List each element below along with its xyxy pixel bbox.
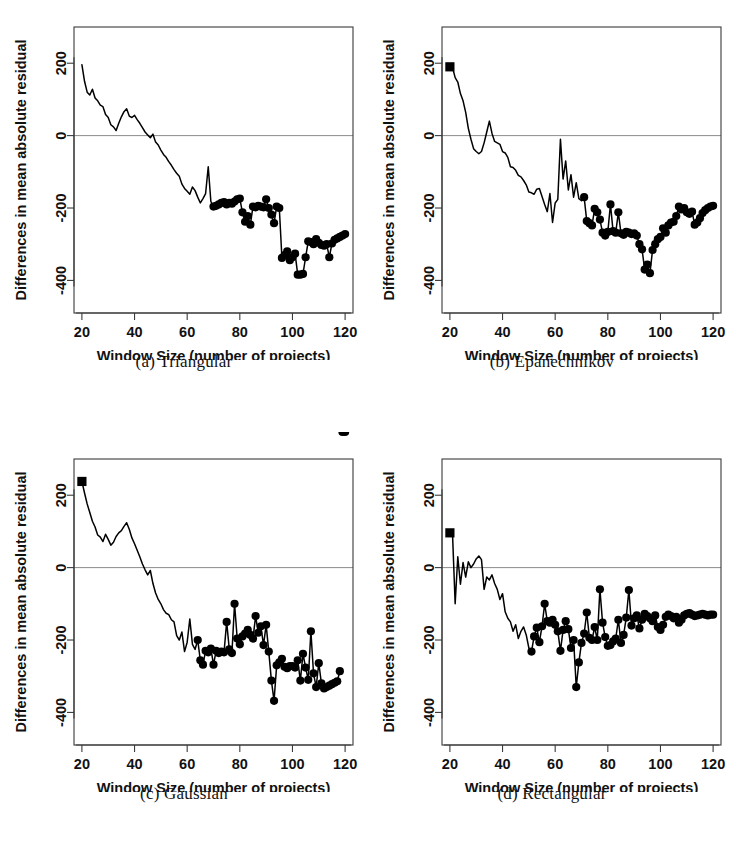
data-point [270,219,278,227]
y-axis-title: Differences in mean absolute residual [13,471,29,732]
data-point [593,208,601,216]
data-point [341,230,349,238]
data-line [82,481,340,700]
y-tick-label: -400 [53,266,69,295]
data-point [252,612,260,620]
data-point [572,683,580,691]
data-point [262,621,270,629]
data-point [265,648,273,656]
x-tick-label: 100 [280,756,304,772]
data-point [315,659,323,667]
data-point [620,631,628,639]
x-tick-label: 20 [74,756,90,772]
data-point [325,253,333,261]
data-point [270,697,278,705]
caption-b: (b) Epanechnikov [368,352,736,372]
caption-c: (c) Gaussian [0,784,368,804]
data-point [577,639,585,647]
panel-c: 204060801001202000-200-400Window Size (n… [0,432,368,864]
data-point [194,636,202,644]
x-tick-label: 20 [74,324,90,340]
y-tick-label: -200 [53,625,69,654]
x-tick-label: 80 [600,324,616,340]
data-point [591,623,599,631]
data-point [564,625,572,633]
x-tick-label: 20 [442,324,458,340]
data-point [567,644,575,652]
data-point [267,210,275,218]
y-tick-label: 0 [421,564,437,572]
data-point [643,260,651,268]
x-tick-label: 60 [179,756,195,772]
data-point [646,269,654,277]
plot-svg-b: 204060801001202000-200-400Window Size (n… [368,0,736,360]
data-point [333,677,341,685]
y-tick-label: 0 [53,132,69,140]
x-tick-label: 100 [648,756,672,772]
data-point [709,202,717,210]
plot-b: 204060801001202000-200-400Window Size (n… [368,0,736,360]
x-tick-label: 40 [494,324,510,340]
data-point [601,633,609,641]
x-tick-label: 120 [333,324,357,340]
data-point [562,617,570,625]
data-point [662,229,670,237]
data-point [556,647,564,655]
data-point [635,624,643,632]
data-point [309,669,317,677]
plot-frame [442,27,721,313]
y-tick-label: 0 [53,564,69,572]
x-tick-label: 40 [126,756,142,772]
plot-svg-a: 204060801001202000-200-400Window Size (n… [0,0,368,360]
x-tick-label: 80 [232,756,248,772]
x-tick-label: 120 [701,324,725,340]
x-tick-label: 80 [600,756,616,772]
data-point [622,613,630,621]
data-point [593,636,601,644]
plot-d: 204060801001202000-200-400Window Size (n… [368,432,736,792]
data-point [223,618,231,626]
data-point [588,221,596,229]
caption-d: (d) Rectangular [368,784,736,804]
data-point [209,661,217,669]
x-tick-label: 20 [442,756,458,772]
y-tick-label: 0 [421,132,437,140]
start-marker [445,62,454,71]
x-tick-label: 100 [648,324,672,340]
plot-body-c: 204060801001202000-200-400Window Size (n… [13,432,357,792]
x-tick-label: 120 [333,756,357,772]
data-point [596,216,604,224]
plot-body-b: 204060801001202000-200-400Window Size (n… [381,27,725,360]
data-point [275,204,283,212]
x-tick-label: 60 [547,324,563,340]
x-tick-label: 40 [126,324,142,340]
panel-d: 204060801001202000-200-400Window Size (n… [368,432,736,864]
data-point [633,231,641,239]
x-tick-label: 100 [280,324,304,340]
data-point [570,636,578,644]
y-tick-label: -200 [421,625,437,654]
data-point [307,627,315,635]
data-point [606,200,614,208]
data-point [294,656,302,664]
y-tick-label: -200 [421,193,437,222]
plot-body-d: 204060801001202000-200-400Window Size (n… [381,459,725,792]
data-point [709,611,717,619]
data-point [617,639,625,647]
y-axis-title: Differences in mean absolute residual [381,471,397,732]
data-point [291,250,299,258]
y-tick-label: 200 [53,51,69,75]
plot-a: 204060801001202000-200-400Window Size (n… [0,0,368,360]
data-point [259,641,267,649]
data-point [291,663,299,671]
caption-a: (a) Triangular [0,352,368,372]
data-point [230,600,238,608]
data-point [614,616,622,624]
data-point [651,611,659,619]
data-point [304,676,312,684]
plot-c: 204060801001202000-200-400Window Size (n… [0,432,368,792]
y-tick-label: 200 [421,51,437,75]
data-point [535,638,543,646]
data-point [236,195,244,203]
y-tick-label: 200 [53,483,69,507]
